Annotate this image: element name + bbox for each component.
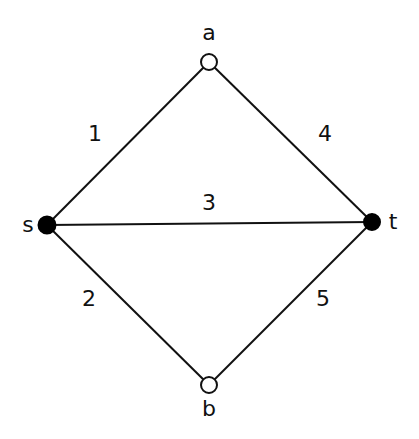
node-label-a: a (202, 20, 215, 45)
edge-labels: 1 2 3 4 5 (82, 121, 332, 311)
node-labels: a s t b (22, 20, 397, 421)
node-s (39, 217, 56, 234)
edge-label-3: 3 (202, 190, 216, 215)
node-a (201, 54, 217, 70)
node-b (201, 377, 217, 393)
edge-label-2: 2 (82, 286, 96, 311)
edge-label-5: 5 (316, 286, 330, 311)
node-t (364, 214, 380, 230)
edge-label-4: 4 (318, 121, 332, 146)
edge-s-t (47, 222, 372, 225)
node-label-b: b (202, 396, 216, 421)
node-label-s: s (22, 212, 33, 237)
graph-diagram: 1 2 3 4 5 a s t b (0, 0, 419, 439)
edge-b-t (209, 222, 372, 385)
node-label-t: t (389, 209, 398, 234)
edges (47, 62, 372, 385)
edge-s-a (47, 62, 209, 225)
edge-a-t (209, 62, 372, 222)
edge-s-b (47, 225, 209, 385)
edge-label-1: 1 (88, 121, 102, 146)
